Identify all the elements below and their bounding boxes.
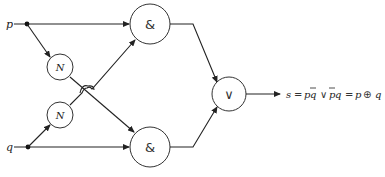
- wire-and-top-to-or: [170, 24, 217, 82]
- wire-p-to-not-top: [27, 24, 50, 57]
- and-gate-top: &: [130, 4, 170, 44]
- wire-q-to-not-bottom: [28, 125, 50, 147]
- expr-or: ∨: [320, 89, 327, 100]
- not-gate-top: N: [47, 54, 73, 80]
- wire-not-top-to-and-bottom: [70, 77, 134, 132]
- expr-q2: q: [335, 89, 341, 100]
- not-top-symbol: N: [55, 62, 66, 73]
- input-q-label: q: [6, 141, 13, 154]
- and-gate-bottom: &: [130, 127, 170, 167]
- not-bottom-symbol: N: [55, 110, 66, 121]
- expr-s: s: [286, 89, 291, 100]
- wire-not-bottom-to-and-top: [70, 40, 135, 105]
- and-top-symbol: &: [145, 17, 155, 32]
- wire-and-bottom-to-or: [170, 107, 217, 147]
- expr-q3: q: [375, 89, 381, 100]
- or-gate: ∨: [212, 77, 246, 111]
- or-symbol: ∨: [224, 87, 234, 102]
- and-bottom-symbol: &: [145, 140, 155, 155]
- expr-eq1: =: [294, 89, 302, 100]
- expr-p3: p: [355, 89, 362, 100]
- output-expression: s = p q ∨ p q = p ⊕ q: [286, 88, 381, 100]
- input-p-label: p: [6, 18, 13, 31]
- logic-circuit-diagram: p q N N & & ∨ s = p: [0, 0, 385, 177]
- not-gate-bottom: N: [47, 102, 73, 128]
- expr-xor: ⊕: [363, 89, 371, 100]
- expr-eq2: =: [345, 89, 353, 100]
- expr-q1: q: [310, 89, 316, 100]
